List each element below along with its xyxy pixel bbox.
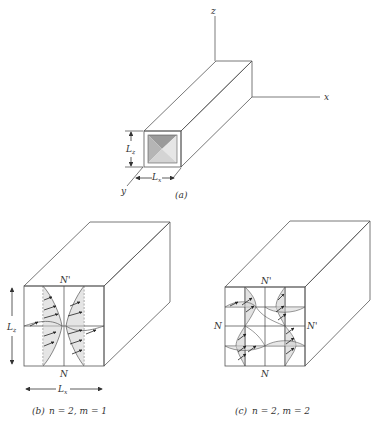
x-axis-label: x [324, 92, 329, 102]
field-lobe-left [43, 286, 62, 366]
node-label-top: N' [260, 276, 271, 286]
svg-text:z: z [12, 326, 17, 333]
svg-text:x: x [64, 388, 68, 395]
node-label-left: N [213, 321, 223, 331]
tube-top-face [144, 61, 252, 131]
box-c-top-face [225, 221, 370, 287]
panel-c-mode-2-2: N' N N N' (c) n = 2, m = 2 [213, 221, 370, 416]
box-b-side-face [104, 222, 170, 366]
panel-c-caption: n = 2, m = 2 [252, 406, 310, 416]
y-axis [127, 167, 143, 186]
svg-text:z: z [131, 148, 136, 155]
node-label-right: N' [306, 321, 317, 331]
y-axis-label: y [120, 186, 127, 196]
node-label-top: N' [59, 275, 70, 285]
lx-dim-label: L [57, 384, 64, 394]
svg-text:x: x [158, 176, 162, 183]
panel-c-caption-prefix: (c) [235, 406, 248, 416]
panel-b-caption: n = 2, m = 1 [49, 406, 107, 416]
node-label-bottom: N [260, 369, 270, 379]
panel-b-caption-prefix: (b) [32, 406, 45, 416]
node-label-bottom: N [59, 369, 69, 379]
panel-b-mode-2-1: N' N L z L x (b) n = 2, m = 1 [6, 222, 170, 416]
z-axis-label: z [210, 6, 216, 16]
tube-side-face [181, 61, 252, 167]
lz-label: L [125, 144, 132, 154]
lz-dim-label: L [6, 322, 13, 332]
waveguide-mode-diagram: z x y L z L x (a) [0, 0, 386, 434]
lx-label: L [151, 172, 158, 182]
box-b-top-face [24, 222, 170, 286]
panel-a-caption: (a) [175, 190, 188, 200]
field-arrows-b [30, 297, 96, 354]
field-lobe-right [66, 286, 84, 366]
panel-a-rectangular-tube: z x y L z L x (a) [120, 6, 329, 200]
box-c-side-face [305, 221, 370, 366]
